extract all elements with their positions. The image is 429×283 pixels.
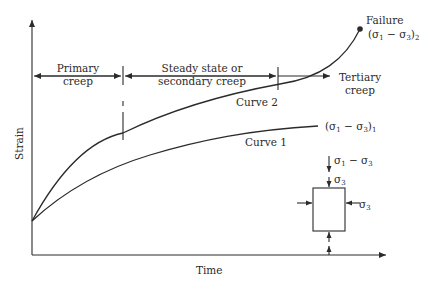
diagram-graphics	[0, 0, 429, 283]
confining-top-label: σ3	[334, 173, 346, 189]
y-axis-label: Strain	[13, 127, 25, 160]
phase-secondary-label: Steady state or secondary creep	[150, 62, 254, 87]
x-axis-label: Time	[196, 264, 223, 276]
top-load-label: σ1 − σ3	[334, 154, 373, 170]
phase-tertiary-label: Tertiary creep	[335, 71, 385, 96]
specimen-box	[313, 188, 345, 231]
curve-1-label: Curve 1	[245, 136, 287, 148]
phase-primary-label: Primary creep	[50, 62, 106, 87]
stress-1-label: (σ1 − σ3)1	[325, 120, 376, 136]
failure-point	[357, 26, 363, 32]
failure-label: Failure	[366, 14, 404, 26]
creep-diagram: Strain Time Primary creep Steady state o…	[0, 0, 429, 283]
stress-2-label: (σ1 − σ3)2	[368, 28, 419, 44]
confining-side-label: σ3	[359, 198, 371, 214]
curve-2-label: Curve 2	[236, 96, 278, 108]
curve-2	[32, 29, 360, 221]
